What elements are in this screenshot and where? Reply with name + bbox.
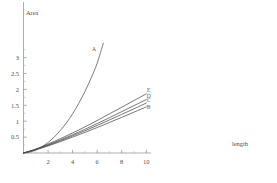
chart-container: 2468100.511.522.53 AEDCB Area length xyxy=(0,0,277,183)
x-tick-label: 10 xyxy=(143,158,149,165)
x-tick-label: 4 xyxy=(71,158,75,165)
y-tick-label: 3 xyxy=(16,54,19,61)
curve-label-c: C xyxy=(147,97,151,103)
y-tick-label: 2.5 xyxy=(11,70,19,77)
x-tick-label: 2 xyxy=(46,158,49,165)
curve-c xyxy=(24,103,147,153)
y-axis-title: Area xyxy=(26,9,39,16)
axis-tick-labels: 2468100.511.522.53 xyxy=(11,54,149,165)
curve-a xyxy=(24,43,104,153)
data-curves xyxy=(24,43,147,153)
curve-label-a: A xyxy=(92,46,96,52)
axis-ticks xyxy=(24,50,147,153)
x-tick-label: 6 xyxy=(96,158,99,165)
y-tick-label: 1 xyxy=(16,118,19,125)
axes xyxy=(24,2,152,153)
y-tick-label: 0.5 xyxy=(11,133,19,140)
y-tick-label: 2 xyxy=(16,86,19,93)
curve-d xyxy=(24,100,147,153)
x-tick-label: 8 xyxy=(120,158,123,165)
y-tick-label: 1.5 xyxy=(11,102,19,109)
curve-labels: AEDCB xyxy=(92,46,151,111)
curve-e xyxy=(24,94,147,153)
x-axis-title: length xyxy=(232,140,249,147)
curve-b xyxy=(24,107,147,153)
curve-label-b: B xyxy=(147,104,151,110)
area-vs-length-line-chart: 2468100.511.522.53 AEDCB Area length xyxy=(0,0,277,183)
